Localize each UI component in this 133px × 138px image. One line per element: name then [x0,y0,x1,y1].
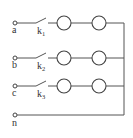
switch-blade-icon [36,53,46,58]
lamp-icon [92,51,106,65]
switch-blade-icon [36,18,46,23]
lamp-icon [92,79,106,93]
lamp-icon [92,16,106,30]
switch-label-subscript: 1 [42,30,45,37]
switch-label-subscript: 2 [42,65,45,72]
phase-row-c: ck3 [12,79,124,100]
lamp-icon [57,16,71,30]
circuit-diagram: ak1bk2ck3 n [0,0,133,138]
neutral-line: n [12,113,124,128]
terminal-label-b: b [12,59,17,70]
lamp-icon [57,51,71,65]
switch-blade-icon [36,81,46,86]
switch-label-subscript: 3 [42,93,45,100]
terminal-label-a: a [12,24,17,35]
phase-row-b: bk2 [12,51,124,72]
terminal-label-c: c [12,87,17,98]
neutral-label: n [12,117,17,128]
phase-row-a: ak1 [12,16,124,37]
lamp-icon [57,79,71,93]
